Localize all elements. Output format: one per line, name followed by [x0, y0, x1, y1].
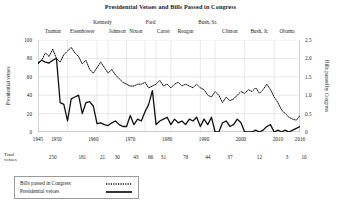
x-tick-label: 2010: [266, 136, 290, 142]
y-tick-label-right: 1.0: [305, 92, 321, 98]
total-veto-value: 78: [176, 154, 196, 160]
total-veto-value: 181: [72, 154, 92, 160]
president-label-kennedy: Kennedy: [79, 19, 127, 25]
total-veto-value: 31: [153, 154, 173, 160]
y-axis-label-right: Bills passed by Congress: [320, 40, 330, 132]
president-label-ford: Ford: [127, 19, 175, 25]
total-veto-value: 37: [220, 154, 240, 160]
x-tick-label: 1990: [192, 136, 216, 142]
legend-key-solid: [106, 188, 132, 196]
y-axis-label-left: Presidential vetoes: [5, 40, 15, 132]
president-label-obama: Obama: [263, 28, 311, 34]
legend-label-vetoes: Presidential vetoes: [20, 188, 59, 194]
totals-row-label: Total vetoes: [4, 152, 30, 163]
legend-item-bills: Bills passed in Congress: [20, 180, 71, 188]
total-veto-value: 44: [198, 154, 218, 160]
x-tick-label: 1950: [44, 136, 68, 142]
y-tick-label-left: 60: [16, 74, 32, 80]
legend-item-vetoes: Presidential vetoes: [20, 188, 59, 196]
plot-area: [38, 40, 300, 132]
y-tick-label-left: 0: [16, 129, 32, 135]
legend-label-bills: Bills passed in Congress: [20, 180, 71, 186]
chart-title: Presidential Vetoes and Bills Passed in …: [0, 3, 341, 10]
x-tick-label: 2000: [229, 136, 253, 142]
total-veto-value: 12: [249, 154, 269, 160]
x-tick-label: 2016: [288, 136, 312, 142]
chart-figure: Presidential Vetoes and Bills Passed in …: [0, 0, 341, 203]
y-tick-label-right: 0.5: [305, 111, 321, 117]
president-label-bush-sr: Bush, Sr.: [184, 19, 232, 25]
chart-legend: Bills passed in Congress Presidential ve…: [14, 176, 139, 199]
president-label-band: TrumanEisenhowerKennedyJohnsonNixonFordC…: [38, 16, 300, 38]
y-tick-label-right: 1.5: [305, 74, 321, 80]
x-tick-label: 1980: [155, 136, 179, 142]
y-tick-label-left: 80: [16, 55, 32, 61]
legend-key-dotted: [106, 180, 132, 188]
y-tick-label-left: 40: [16, 92, 32, 98]
total-veto-value: 10: [294, 154, 314, 160]
x-tick-label: 1960: [81, 136, 105, 142]
total-veto-value: 30: [107, 154, 127, 160]
y-tick-label-left: 100: [16, 37, 32, 43]
y-tick-label-right: 0: [305, 129, 321, 135]
y-tick-label-left: 20: [16, 111, 32, 117]
y-tick-label-right: 2.0: [305, 55, 321, 61]
president-label-reagan: Reagan: [162, 28, 210, 34]
total-veto-value: 250: [43, 154, 63, 160]
y-tick-label-right: 2.5: [305, 37, 321, 43]
chart-canvas: [38, 40, 300, 132]
totals-label-line2: vetoes: [4, 157, 30, 162]
x-tick-label: 1970: [118, 136, 142, 142]
